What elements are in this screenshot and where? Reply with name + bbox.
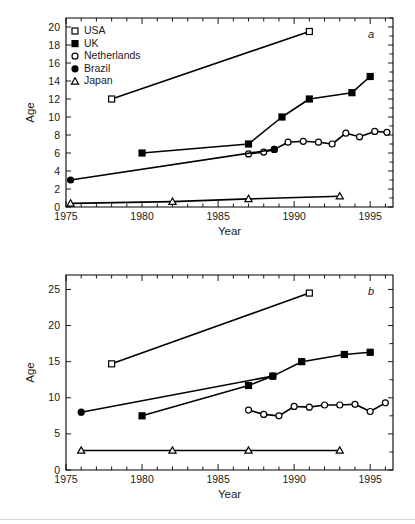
series-b-netherlands-pt7-marker-open-circle bbox=[352, 401, 358, 407]
series-a-netherlands-pt3-marker-open-circle bbox=[285, 139, 291, 145]
xtick-label-b-4: 1995 bbox=[359, 473, 383, 485]
legend-brazil-marker-filled-circle bbox=[72, 66, 78, 72]
legend-label-japan: Japan bbox=[84, 74, 113, 86]
ytick-label-a-8: 16 bbox=[48, 57, 60, 69]
series-a-uk bbox=[139, 74, 373, 157]
series-b-usa-pt1-marker-open-square bbox=[306, 290, 312, 296]
series-line-a-brazil bbox=[71, 149, 275, 180]
series-b-netherlands-pt3-marker-open-circle bbox=[291, 403, 297, 409]
legend-label-netherlands: Netherlands bbox=[84, 49, 141, 61]
series-b-netherlands-pt1-marker-open-circle bbox=[261, 411, 267, 417]
xtick-label-a-3: 1990 bbox=[282, 210, 306, 222]
series-b-japan bbox=[78, 447, 344, 453]
series-a-usa-pt0-marker-open-square bbox=[109, 96, 115, 102]
series-a-uk-pt5-marker-filled-square bbox=[367, 74, 373, 80]
series-line-a-usa bbox=[112, 32, 310, 100]
series-b-netherlands-pt8-marker-open-circle bbox=[367, 409, 373, 415]
footer-divider bbox=[0, 519, 415, 520]
series-b-netherlands-pt4-marker-open-circle bbox=[306, 404, 312, 410]
ytick-label-a-0: 0 bbox=[54, 201, 60, 213]
ytick-label-b-0: 0 bbox=[54, 464, 60, 476]
legend-label-usa: USA bbox=[84, 24, 106, 36]
ytick-label-a-3: 6 bbox=[54, 147, 60, 159]
legend-japan-marker-open-triangle bbox=[71, 78, 78, 84]
legend-label-brazil: Brazil bbox=[84, 62, 110, 74]
xtick-label-a-2: 1985 bbox=[206, 210, 230, 222]
series-a-usa-pt1-marker-open-square bbox=[306, 29, 312, 35]
panel-label-a: a bbox=[368, 28, 374, 40]
ytick-label-a-4: 8 bbox=[54, 129, 60, 141]
series-a-uk-pt1-marker-filled-square bbox=[246, 141, 252, 147]
series-a-netherlands-pt6-marker-open-circle bbox=[329, 141, 335, 147]
panel-a: 19751980198519901995Year0246810121416182… bbox=[24, 18, 393, 237]
xtick-label-a-4: 1995 bbox=[359, 210, 383, 222]
xaxis-title-b: Year bbox=[218, 488, 241, 500]
yaxis-title-a: Age bbox=[24, 102, 36, 122]
series-line-b-netherlands bbox=[249, 403, 386, 416]
series-a-netherlands-pt4-marker-open-circle bbox=[300, 138, 306, 144]
series-b-brazil-pt0-marker-filled-circle bbox=[78, 409, 84, 415]
series-a-netherlands-pt8-marker-open-circle bbox=[357, 134, 363, 140]
ytick-label-a-2: 4 bbox=[54, 165, 60, 177]
series-b-usa bbox=[109, 290, 313, 367]
ytick-label-a-1: 2 bbox=[54, 183, 60, 195]
series-b-netherlands-pt6-marker-open-circle bbox=[337, 402, 343, 408]
xtick-label-b-1: 1980 bbox=[130, 473, 154, 485]
series-a-uk-pt4-marker-filled-square bbox=[349, 90, 355, 96]
ytick-label-a-5: 10 bbox=[48, 111, 60, 123]
legend-label-uk: UK bbox=[84, 37, 99, 49]
series-b-uk-pt4-marker-filled-square bbox=[341, 351, 347, 357]
series-b-uk-pt0-marker-filled-square bbox=[139, 413, 145, 419]
panel-label-b: b bbox=[368, 285, 374, 297]
series-b-netherlands-pt0-marker-open-circle bbox=[246, 407, 252, 413]
series-line-a-japan bbox=[71, 196, 340, 203]
ytick-label-b-4: 20 bbox=[48, 319, 60, 331]
series-a-japan bbox=[67, 193, 343, 207]
series-b-netherlands bbox=[246, 400, 389, 419]
xtick-label-b-2: 1985 bbox=[206, 473, 230, 485]
series-a-netherlands-pt9-marker-open-circle bbox=[372, 128, 378, 134]
series-a-usa bbox=[109, 29, 313, 103]
axis-frame-a bbox=[66, 18, 393, 207]
series-a-netherlands-pt5-marker-open-circle bbox=[315, 139, 321, 145]
chart-svg: 19751980198519901995Year0246810121416182… bbox=[0, 0, 415, 524]
xtick-label-a-1: 1980 bbox=[130, 210, 154, 222]
series-a-netherlands-pt7-marker-open-circle bbox=[343, 130, 349, 136]
series-a-uk-pt0-marker-filled-square bbox=[139, 150, 145, 156]
ytick-label-b-2: 10 bbox=[48, 391, 60, 403]
series-b-uk-pt1-marker-filled-square bbox=[246, 383, 252, 389]
series-line-b-uk bbox=[142, 352, 370, 416]
series-b-uk-pt5-marker-filled-square bbox=[367, 349, 373, 355]
legend: USAUKNetherlandsBrazilJapan bbox=[71, 24, 140, 86]
series-a-uk-pt2-marker-filled-square bbox=[279, 114, 285, 120]
series-a-netherlands-pt10-marker-open-circle bbox=[384, 129, 390, 135]
series-b-uk bbox=[139, 349, 373, 419]
ytick-label-a-7: 14 bbox=[48, 75, 60, 87]
legend-usa-marker-open-square bbox=[72, 28, 78, 34]
axis-frame-b bbox=[66, 275, 393, 470]
series-b-brazil-pt1-marker-filled-circle bbox=[270, 373, 276, 379]
ytick-label-a-10: 20 bbox=[48, 21, 60, 33]
figure-container: 19751980198519901995Year0246810121416182… bbox=[0, 0, 415, 524]
yaxis-title-b: Age bbox=[24, 362, 36, 382]
series-a-brazil-pt0-marker-filled-circle bbox=[68, 177, 74, 183]
series-b-netherlands-pt9-marker-open-circle bbox=[382, 400, 388, 406]
panel-b: 19751980198519901995Year0510152025Ageb bbox=[24, 275, 393, 500]
series-b-usa-pt0-marker-open-square bbox=[109, 361, 115, 367]
series-a-netherlands bbox=[246, 128, 390, 157]
series-a-brazil-pt1-marker-filled-circle bbox=[271, 146, 277, 152]
ytick-label-b-3: 15 bbox=[48, 355, 60, 367]
ytick-label-b-5: 25 bbox=[48, 283, 60, 295]
ytick-label-b-1: 5 bbox=[54, 427, 60, 439]
series-line-b-brazil bbox=[81, 376, 273, 412]
legend-netherlands-marker-open-circle bbox=[72, 53, 78, 59]
ytick-label-a-9: 18 bbox=[48, 39, 60, 51]
series-b-netherlands-pt5-marker-open-circle bbox=[322, 402, 328, 408]
series-a-uk-pt3-marker-filled-square bbox=[306, 96, 312, 102]
xaxis-title-a: Year bbox=[218, 225, 241, 237]
legend-uk-marker-filled-square bbox=[72, 41, 78, 47]
xtick-label-b-3: 1990 bbox=[282, 473, 306, 485]
series-b-netherlands-pt2-marker-open-circle bbox=[276, 413, 282, 419]
series-b-uk-pt3-marker-filled-square bbox=[299, 359, 305, 365]
series-line-b-usa bbox=[112, 293, 310, 364]
